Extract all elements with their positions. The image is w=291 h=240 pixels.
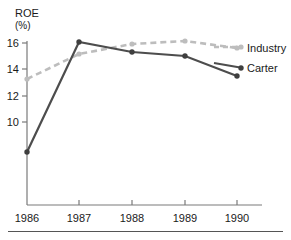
legend-marker-industry [238, 44, 243, 49]
carter-markers [24, 39, 239, 154]
x-tick-label-1988: 1988 [115, 212, 149, 224]
legend-label-carter: Carter [247, 62, 278, 74]
x-tick-label-1986: 1986 [10, 212, 44, 224]
series-line-industry [24, 38, 239, 81]
industry-markers [24, 38, 239, 81]
y-tick-label-14: 14 [3, 63, 19, 75]
chart-plot-area [0, 0, 291, 240]
x-tick-label-1987: 1987 [62, 212, 96, 224]
carter-line [27, 42, 237, 152]
y-tick-label-16: 16 [3, 37, 19, 49]
legend-swatches [214, 44, 244, 70]
x-tick-label-1989: 1989 [168, 212, 202, 224]
legend-marker-carter [238, 65, 243, 70]
bottom-divider-rule [8, 231, 283, 232]
y-axis-ticks [22, 43, 27, 122]
y-tick-label-12: 12 [3, 90, 19, 102]
x-tick-label-1990: 1990 [220, 212, 254, 224]
series-line-carter [24, 39, 239, 154]
y-tick-label-10: 10 [3, 116, 19, 128]
legend-label-industry: Industry [247, 42, 286, 54]
industry-line [27, 41, 237, 79]
x-axis-ticks [79, 200, 237, 205]
roe-line-chart: ROE (%) [0, 0, 291, 240]
